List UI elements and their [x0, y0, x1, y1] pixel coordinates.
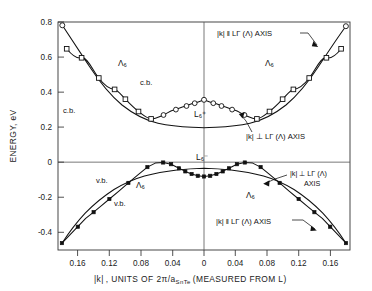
y-tick-label: 0.2: [41, 123, 53, 132]
y-tick-label: 0.4: [41, 88, 53, 97]
l6-plus-text: L₆⁺: [194, 109, 206, 119]
band-structure-figure: 0.8 0.6 0.4 0.2 0 -0.2 -0.4 ENERGY, eV 0…: [0, 0, 372, 291]
annotation-cb-perp: |k| ⊥ LΓ (Λ) AXIS: [246, 132, 305, 141]
y-tick-label: -0.2: [38, 193, 53, 202]
y-axis-ticks: [58, 22, 64, 232]
cb-label-upper-left: c.b.: [140, 78, 152, 87]
vb-label-upper-left: v.b.: [96, 176, 108, 185]
x-tick-label: 0: [202, 259, 207, 268]
annotation-cb-parallel: |k| ‖ LΓ (Λ) AXIS: [217, 29, 272, 38]
y-tick-label: 0: [47, 158, 52, 167]
x-tick-label: 0.04: [227, 259, 243, 268]
x-tick-label: 0.08: [133, 259, 149, 268]
annotation-vb-perp-line2: AXIS: [304, 179, 321, 188]
x-axis-title: |k|, UNITS OF2π/aSnTe(MEASURED FROM L): [94, 274, 287, 285]
lambda6-lower-right-label: Λ₆: [246, 190, 255, 200]
cb-label-lower-left: c.b.: [63, 106, 75, 115]
x-tick-label: 0.16: [322, 259, 338, 268]
x-tick-label: 0.16: [70, 259, 86, 268]
chart-svg: 0.8 0.6 0.4 0.2 0 -0.2 -0.4 ENERGY, eV 0…: [0, 0, 372, 291]
y-axis-tick-labels: 0.8 0.6 0.4 0.2 0 -0.2 -0.4: [38, 18, 53, 237]
x-axis-title-k: |k|: [94, 274, 104, 284]
vb-label-lower-left: v.b.: [114, 199, 126, 208]
lambda6-upper-right-label: Λ₆: [265, 58, 274, 68]
x-axis-tick-labels: 0.16 0.12 0.08 0.04 0 0.04 0.08 0.12 0.1…: [70, 259, 339, 268]
x-axis-title-tail: (MEASURED FROM L): [193, 274, 287, 284]
y-tick-label: -0.4: [38, 228, 53, 237]
x-axis-title-units: , UNITS OF: [106, 274, 154, 284]
x-tick-label: 0.08: [259, 259, 275, 268]
svg-text:|k|, UNITS OF2π/aSnTe(MEASURED: |k|, UNITS OF2π/aSnTe(MEASURED FROM L): [94, 274, 287, 285]
annotation-vb-parallel: |k| ‖ LΓ (Λ) AXIS: [216, 217, 271, 226]
y-axis-title: ENERGY, eV: [8, 109, 18, 162]
l6-minus-text: L₆⁻: [196, 152, 208, 162]
y-tick-label: 0.8: [41, 18, 53, 27]
lambda6-lower-left-label: Λ₆: [136, 180, 145, 190]
x-axis-ticks: [78, 250, 331, 256]
l6-minus-label: L₆⁻: [196, 152, 208, 162]
y-tick-label: 0.6: [41, 53, 53, 62]
x-tick-label: 0.12: [101, 259, 117, 268]
x-axis-title-sub: SnTe: [176, 279, 192, 285]
leader-arrowhead-vb-parallel: [310, 226, 316, 231]
l6-plus-label: L₆⁺: [194, 109, 206, 119]
x-tick-label: 0.04: [165, 259, 181, 268]
x-axis-title-frac: 2π/a: [157, 274, 176, 284]
leader-arrowhead-vb-perp: [263, 180, 269, 186]
lambda6-upper-left-label: Λ₆: [118, 58, 127, 68]
annotation-vb-perp-line1: |k| ⊥ LΓ (Λ): [290, 169, 327, 178]
x-tick-label: 0.12: [291, 259, 307, 268]
